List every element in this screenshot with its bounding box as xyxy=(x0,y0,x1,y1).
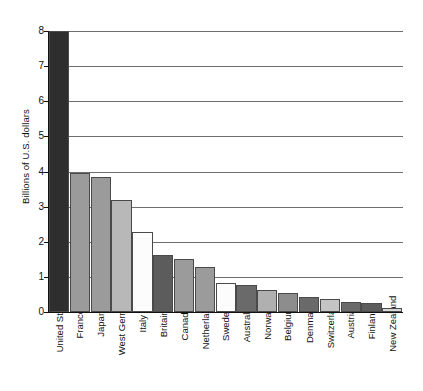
y-tick-label: 8 xyxy=(30,26,44,36)
bar xyxy=(320,299,340,312)
x-axis-label: Britain xyxy=(153,314,174,389)
bar xyxy=(70,173,90,312)
y-tick-label: 7 xyxy=(30,61,44,71)
gridline xyxy=(49,312,403,313)
x-axis-label-text: Britain xyxy=(159,310,169,337)
x-axis-label-text: Italy xyxy=(138,315,148,332)
y-tick-label: 5 xyxy=(30,131,44,141)
x-axis-labels: United StatesFranceJapanWest GermanyItal… xyxy=(49,314,403,391)
bar xyxy=(111,200,131,312)
x-axis-label: United States xyxy=(49,314,70,389)
bar xyxy=(299,297,319,312)
x-axis-label-text: Austria xyxy=(346,309,356,339)
bar xyxy=(153,255,173,312)
bar xyxy=(382,308,402,312)
bar xyxy=(278,293,298,312)
bar xyxy=(195,267,215,312)
x-axis-label: Sweden xyxy=(216,314,237,389)
x-axis-label: Italy xyxy=(132,314,153,389)
bar xyxy=(361,303,381,312)
x-axis-label: Denmark xyxy=(299,314,320,389)
bar xyxy=(341,302,361,312)
bar xyxy=(49,31,69,312)
y-tick-label: 6 xyxy=(30,96,44,106)
x-axis-label: Norway xyxy=(257,314,278,389)
x-axis-label: Netherlands xyxy=(195,314,216,389)
y-tick-label: 3 xyxy=(30,202,44,212)
bar xyxy=(236,285,256,312)
bar xyxy=(132,232,152,312)
bars-layer xyxy=(49,31,403,312)
x-axis-label: Switzerland xyxy=(320,314,341,389)
y-tick-label: 0 xyxy=(30,307,44,317)
x-axis-label: Belgium xyxy=(278,314,299,389)
y-tick-label: 4 xyxy=(30,167,44,177)
plot-area xyxy=(49,31,403,312)
x-axis-label: Canada xyxy=(174,314,195,389)
y-tick-label: 1 xyxy=(30,272,44,282)
bar xyxy=(257,290,277,312)
y-axis-ticks: 876543210 xyxy=(27,31,44,312)
bar-chart: Billions of U.S. dollars 876543210 Unite… xyxy=(0,0,423,391)
x-axis-label: Australia xyxy=(236,314,257,389)
x-axis-label-text: France xyxy=(75,309,85,339)
x-axis-label: Finland xyxy=(361,314,382,389)
x-axis-label: New Zealand xyxy=(382,314,403,389)
x-axis-label: France xyxy=(70,314,91,389)
bar xyxy=(216,283,236,312)
x-axis-label-text: Japan xyxy=(96,311,106,337)
x-axis-label: Japan xyxy=(91,314,112,389)
bar xyxy=(174,259,194,312)
bar xyxy=(91,177,111,312)
x-axis-label: Austria xyxy=(341,314,362,389)
y-tick-label: 2 xyxy=(30,237,44,247)
x-axis-label: West Germany xyxy=(111,314,132,389)
